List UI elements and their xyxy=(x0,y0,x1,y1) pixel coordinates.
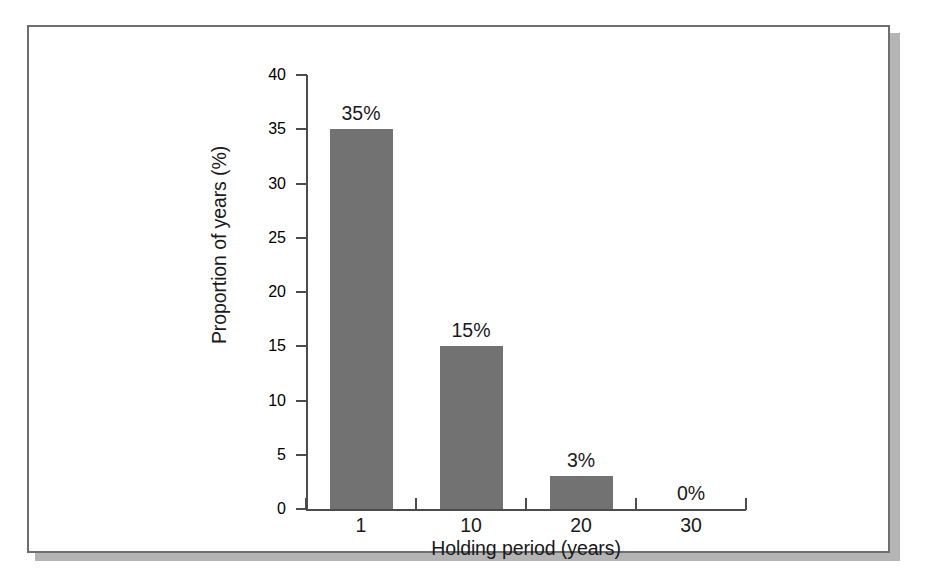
x-axis-tick-label: 20 xyxy=(526,514,636,536)
y-axis-tick-label: 40 xyxy=(224,65,286,85)
x-axis-tick xyxy=(415,498,417,510)
bar-value-label: 0% xyxy=(636,482,746,504)
x-axis-tick-label: 30 xyxy=(636,514,746,536)
bar xyxy=(550,476,613,509)
x-axis-tick-label: 1 xyxy=(306,514,416,536)
y-axis-tick-label-text: 10 xyxy=(268,392,286,410)
y-axis-tick xyxy=(296,345,307,347)
y-axis-tick-label: 30 xyxy=(224,174,286,194)
bar-value-label: 35% xyxy=(306,102,416,124)
y-axis-tick-label-text: 25 xyxy=(268,229,286,247)
bar-value-label: 3% xyxy=(526,449,636,471)
y-axis-tick-label: 25 xyxy=(224,228,286,248)
figure-frame: Proportion of years (%) 0510152025303540… xyxy=(27,25,890,553)
y-axis-tick-label-text: 40 xyxy=(268,66,286,84)
bar xyxy=(330,129,393,509)
y-axis-tick-label-text: 30 xyxy=(268,175,286,193)
y-axis-tick-label-text: 15 xyxy=(268,337,286,355)
bar-chart: Proportion of years (%) 0510152025303540… xyxy=(29,27,888,551)
y-axis-tick xyxy=(296,128,307,130)
bar-value-label: 15% xyxy=(416,319,526,341)
y-axis-tick xyxy=(296,400,307,402)
y-axis-tick xyxy=(296,183,307,185)
x-axis-tick xyxy=(525,498,527,510)
x-axis-tick xyxy=(305,498,307,510)
y-axis-tick xyxy=(296,291,307,293)
y-axis-tick-label-text: 0 xyxy=(277,500,286,518)
bar xyxy=(440,346,503,509)
y-axis-tick xyxy=(296,74,307,76)
y-axis-tick xyxy=(296,237,307,239)
y-axis-tick-label: 5 xyxy=(224,445,286,465)
y-axis-tick-label: 15 xyxy=(224,336,286,356)
y-axis-tick-label: 10 xyxy=(224,391,286,411)
y-axis-line xyxy=(306,75,308,511)
y-axis-tick-label-text: 35 xyxy=(268,120,286,138)
x-axis-tick-label: 10 xyxy=(416,514,526,536)
y-axis-tick-label: 0 xyxy=(224,499,286,519)
y-axis-tick xyxy=(296,454,307,456)
y-axis-tick-label-text: 5 xyxy=(277,446,286,464)
y-axis-tick-label: 20 xyxy=(224,282,286,302)
y-axis-tick-label-text: 20 xyxy=(268,283,286,301)
y-axis-tick-label: 35 xyxy=(224,119,286,139)
x-axis-title: Holding period (years) xyxy=(306,537,746,560)
